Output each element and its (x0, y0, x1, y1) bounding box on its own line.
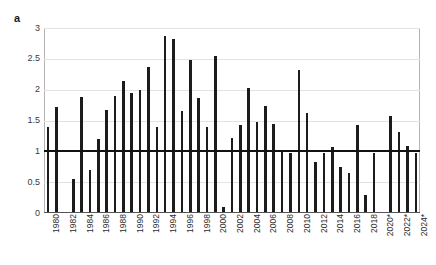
bar (122, 81, 125, 213)
bar (373, 153, 376, 213)
bar (339, 167, 342, 213)
x-axis-tick-label: 2020* (386, 214, 395, 236)
x-axis-tick-label: 2008 (286, 214, 295, 233)
chart-figure: a 00.511.522.53 198019821984198619881990… (0, 0, 436, 265)
bar (272, 124, 275, 213)
bar (206, 127, 209, 213)
y-axis-tick-label: 0.5 (4, 178, 40, 187)
bar (323, 153, 326, 213)
bar (130, 93, 133, 213)
bar (47, 127, 50, 213)
bar (147, 67, 150, 213)
x-axis-tick-label: 1994 (169, 214, 178, 233)
y-axis: 00.511.522.53 (0, 28, 40, 213)
x-axis: 1980198219841986198819901992199419961998… (44, 214, 420, 264)
bar (181, 111, 184, 213)
gridline (44, 28, 420, 29)
reference-line (44, 150, 420, 152)
bar (80, 97, 83, 213)
bar (306, 113, 309, 214)
x-axis-tick-label: 1984 (86, 214, 95, 233)
x-axis-tick-label: 2010 (303, 214, 312, 233)
y-axis-tick-label: 2.5 (4, 54, 40, 63)
bar (189, 60, 192, 213)
bar (406, 146, 409, 213)
y-axis-tick-label: 3 (4, 24, 40, 33)
bar (55, 107, 58, 213)
bar (281, 151, 284, 213)
bar (72, 179, 75, 213)
bar (164, 36, 167, 213)
bar (114, 96, 117, 213)
gridline (44, 121, 420, 122)
bar (356, 125, 359, 213)
x-axis-tick-label: 2012 (320, 214, 329, 233)
x-axis-tick-label: 1996 (186, 214, 195, 233)
bar (314, 162, 317, 213)
x-axis-tick-label: 2024* (420, 214, 429, 236)
plot-area (44, 28, 420, 213)
bar (172, 39, 175, 214)
y-axis-tick-label: 1 (4, 147, 40, 156)
x-axis-tick-label: 1988 (119, 214, 128, 233)
bar (239, 125, 242, 213)
bar (289, 153, 292, 213)
x-axis-tick-label: 2004 (253, 214, 262, 233)
panel-label: a (14, 12, 20, 24)
bar (398, 132, 401, 213)
x-axis-tick-label: 1992 (152, 214, 161, 233)
bar (331, 147, 334, 213)
y-axis-tick-label: 0 (4, 209, 40, 218)
y-axis-tick-label: 2 (4, 85, 40, 94)
x-axis-tick-label: 2014 (336, 214, 345, 233)
bar (105, 110, 108, 213)
x-axis-tick-label: 1980 (52, 214, 61, 233)
bar (231, 138, 234, 213)
x-axis-tick-label: 2006 (269, 214, 278, 233)
bar (348, 173, 351, 213)
x-axis-tick-label: 2002 (236, 214, 245, 233)
bar (214, 56, 217, 213)
x-axis-tick-label: 1998 (203, 214, 212, 233)
bar (197, 98, 200, 213)
x-axis-tick-label: 1982 (69, 214, 78, 233)
bar (264, 106, 267, 213)
bar (156, 127, 159, 213)
x-axis-tick-label: 2000 (219, 214, 228, 233)
bar (389, 116, 392, 213)
gridline (44, 59, 420, 60)
x-axis-tick-label: 2016 (353, 214, 362, 233)
bar (89, 170, 92, 213)
bar (364, 195, 367, 214)
x-axis-tick-label: 2018 (370, 214, 379, 233)
x-axis-tick-label: 1986 (102, 214, 111, 233)
bar (298, 70, 301, 213)
x-axis-tick-label: 1990 (136, 214, 145, 233)
y-axis-tick-label: 1.5 (4, 116, 40, 125)
x-axis-baseline (44, 212, 420, 213)
bar (415, 153, 418, 213)
bar (256, 122, 259, 213)
gridline (44, 90, 420, 91)
x-axis-tick-label: 2022* (403, 214, 412, 236)
